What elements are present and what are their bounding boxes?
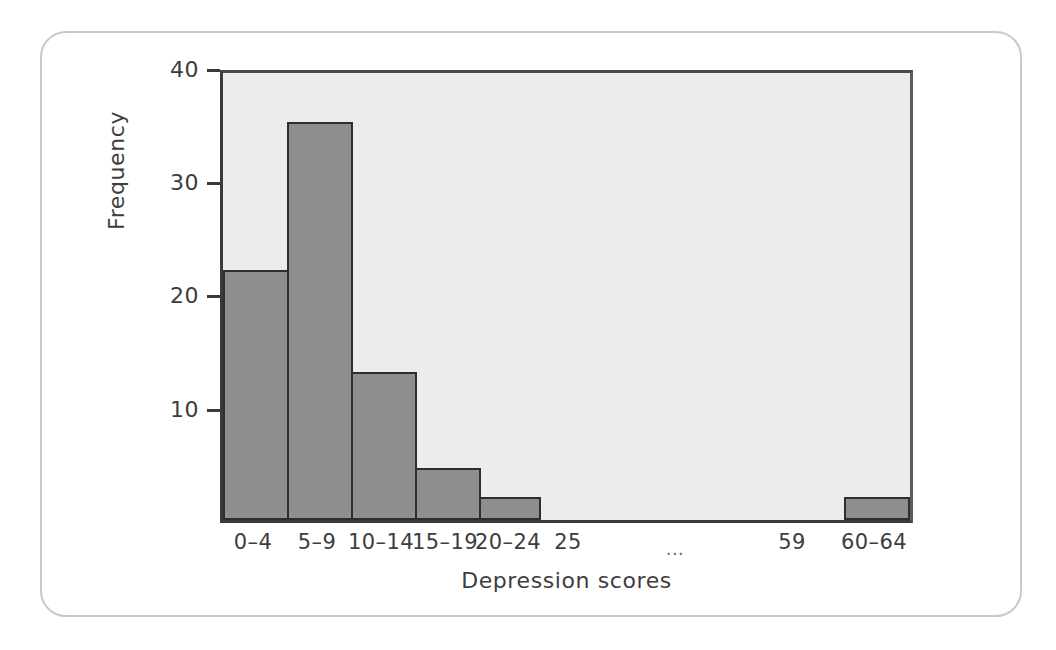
x-tick-label-15-19: 15–19	[412, 531, 478, 554]
bar-10-14	[351, 372, 417, 520]
plot-area	[220, 70, 913, 523]
x-tick-label-0-4: 0–4	[234, 531, 272, 554]
x-axis-title: Depression scores	[220, 568, 913, 593]
y-tick-mark-20	[207, 295, 220, 298]
y-axis: 40 30 20 10 Frequency	[0, 0, 220, 650]
x-tick-label-20-24: 20–24	[475, 531, 541, 554]
bars-container	[223, 73, 910, 520]
bar-15-19	[415, 468, 481, 520]
x-tick-label-25: 25	[554, 531, 582, 554]
bar-60-64	[844, 497, 910, 520]
x-tick-label-ellipsis: ...	[666, 539, 684, 559]
y-tick-label-40: 40	[170, 59, 199, 81]
y-tick-mark-40	[207, 69, 220, 72]
bar-20-24	[479, 497, 541, 520]
y-tick-label-20: 20	[170, 285, 199, 307]
x-tick-label-59: 59	[778, 531, 806, 554]
x-tick-label-60-64: 60–64	[841, 531, 907, 554]
y-tick-mark-10	[207, 409, 220, 412]
x-tick-label-5-9: 5–9	[298, 531, 336, 554]
bar-0-4	[223, 270, 289, 520]
figure-root: 40 30 20 10 Frequency 0–4 5–9	[0, 0, 1056, 650]
x-tick-label-10-14: 10–14	[348, 531, 414, 554]
y-tick-label-30: 30	[170, 172, 199, 194]
y-tick-mark-30	[207, 182, 220, 185]
x-axis-tick-labels: 0–4 5–9 10–14 15–19 20–24 25 ... 59 60–6…	[220, 531, 913, 565]
y-tick-label-10: 10	[170, 399, 199, 421]
bar-5-9	[287, 122, 353, 520]
y-axis-title: Frequency	[104, 111, 129, 230]
